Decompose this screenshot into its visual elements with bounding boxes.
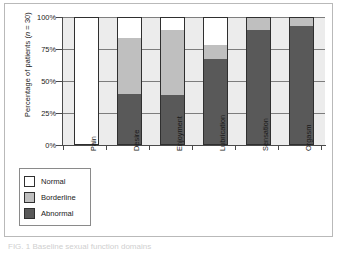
y-tick-mark-100 <box>56 17 62 18</box>
x-tick-label-orgasm: Orgasm <box>304 91 313 151</box>
legend-label-abnormal: Abnormal <box>41 209 74 218</box>
bar-lubrication-segment-borderline <box>203 45 228 59</box>
figure-caption: FIG. 1 Baseline sexual function domains <box>8 242 330 251</box>
y-tick-label-100: 100% <box>12 13 56 22</box>
bar-sensation-segment-borderline <box>246 17 271 30</box>
legend: Normal Borderline Abnormal <box>19 168 91 226</box>
gridline-25 <box>63 113 325 114</box>
gridline-50 <box>63 81 325 82</box>
legend-item-abnormal: Abnormal <box>24 205 85 221</box>
y-tick-mark-25 <box>56 113 62 114</box>
x-tick-label-lubrication: Lubrication <box>218 91 227 151</box>
legend-swatch-borderline <box>24 192 35 203</box>
bar-desire-segment-normal <box>117 17 142 38</box>
y-tick-label-0: 0% <box>12 141 56 150</box>
y-tick-label-50: 50% <box>12 77 56 86</box>
y-tick-mark-0 <box>56 145 62 146</box>
x-tick-mark-1 <box>106 145 107 150</box>
bar-desire-segment-borderline <box>117 38 142 94</box>
legend-item-normal: Normal <box>24 173 85 189</box>
plot-area <box>63 17 325 145</box>
y-axis-line <box>62 17 63 146</box>
x-tick-mark-5 <box>278 145 279 150</box>
y-tick-label-75: 75% <box>12 45 56 54</box>
figure-panel: Percentage of patients (n = 30) <box>4 3 333 237</box>
gridline-75 <box>63 49 325 50</box>
x-tick-label-desire: Desire <box>132 91 141 151</box>
legend-label-normal: Normal <box>41 177 65 186</box>
y-tick-mark-50 <box>56 81 62 82</box>
x-tick-mark-3 <box>192 145 193 150</box>
legend-label-borderline: Borderline <box>41 193 76 202</box>
bar-lubrication-segment-normal <box>203 17 228 45</box>
x-tick-label-sensation: Sensation <box>261 91 270 151</box>
x-tick-mark-6 <box>321 145 322 150</box>
x-tick-label-pain: Pain <box>89 91 98 151</box>
gridline-100 <box>63 17 325 18</box>
x-tick-mark-4 <box>235 145 236 150</box>
figure-container: Percentage of patients (n = 30) <box>0 0 338 254</box>
x-tick-mark-2 <box>149 145 150 150</box>
legend-item-borderline: Borderline <box>24 189 85 205</box>
x-tick-label-enjoyment: Enjoyment <box>175 91 184 151</box>
legend-swatch-abnormal <box>24 208 35 219</box>
bar-enjoyment-segment-normal <box>160 17 185 30</box>
legend-swatch-normal <box>24 176 35 187</box>
bar-orgasm-segment-borderline <box>289 17 314 26</box>
bar-enjoyment-segment-borderline <box>160 30 185 95</box>
x-tick-mark-0 <box>63 145 64 150</box>
y-tick-label-25: 25% <box>12 109 56 118</box>
y-tick-mark-75 <box>56 49 62 50</box>
